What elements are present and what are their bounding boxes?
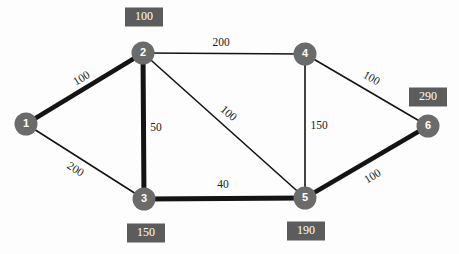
node-label-1: 1 (23, 117, 29, 129)
graph-edge-5-6 (305, 126, 428, 198)
graph-node-4[interactable]: 4 (294, 43, 317, 66)
graph-diagram-canvas: 1002005020010015010040100 123456 1001501… (0, 0, 459, 254)
graph-edge-3-5 (144, 198, 305, 199)
node-cost-badge-6: 290 (409, 88, 447, 107)
graph-edge-1-3 (26, 124, 144, 199)
graph-edge-1-2 (26, 53, 143, 124)
edge-weight-label-1-3: 200 (65, 159, 86, 179)
node-cost-badge-text-2: 100 (135, 9, 153, 23)
edge-weight-label-2-5: 100 (218, 103, 239, 123)
edge-weight-label-4-5: 150 (310, 119, 328, 131)
edge-weight-label-5-6: 100 (362, 166, 383, 185)
node-label-5: 5 (302, 191, 308, 203)
node-cost-badge-2: 100 (125, 8, 163, 27)
node-label-3: 3 (141, 192, 147, 204)
node-cost-badge-text-6: 290 (419, 89, 437, 103)
edge-weight-label-2-3: 50 (150, 121, 162, 133)
graph-svg: 1002005020010015010040100 123456 1001501… (0, 0, 459, 254)
graph-edge-2-3 (143, 53, 144, 199)
graph-node-5[interactable]: 5 (294, 187, 317, 210)
graph-edge-2-4 (143, 53, 305, 54)
node-label-2: 2 (140, 46, 146, 58)
graph-node-2[interactable]: 2 (132, 42, 155, 65)
node-cost-badge-3: 150 (127, 224, 165, 243)
node-label-4: 4 (302, 47, 309, 59)
edge-weight-label-2-4: 200 (212, 36, 230, 48)
node-label-6: 6 (425, 119, 431, 131)
edge-weight-label-3-5: 40 (217, 178, 229, 190)
graph-node-3[interactable]: 3 (133, 188, 156, 211)
graph-edge-2-5 (143, 53, 305, 198)
node-cost-badge-text-5: 190 (297, 223, 315, 237)
graph-node-6[interactable]: 6 (417, 115, 440, 138)
node-cost-badge-text-3: 150 (137, 225, 155, 239)
node-cost-badges-layer: 100150190290 (125, 8, 447, 243)
node-cost-badge-5: 190 (287, 222, 325, 241)
edge-labels-layer: 1002005020010015010040100 (65, 36, 383, 190)
edge-weight-label-4-6: 100 (361, 68, 382, 87)
graph-node-1[interactable]: 1 (15, 113, 38, 136)
